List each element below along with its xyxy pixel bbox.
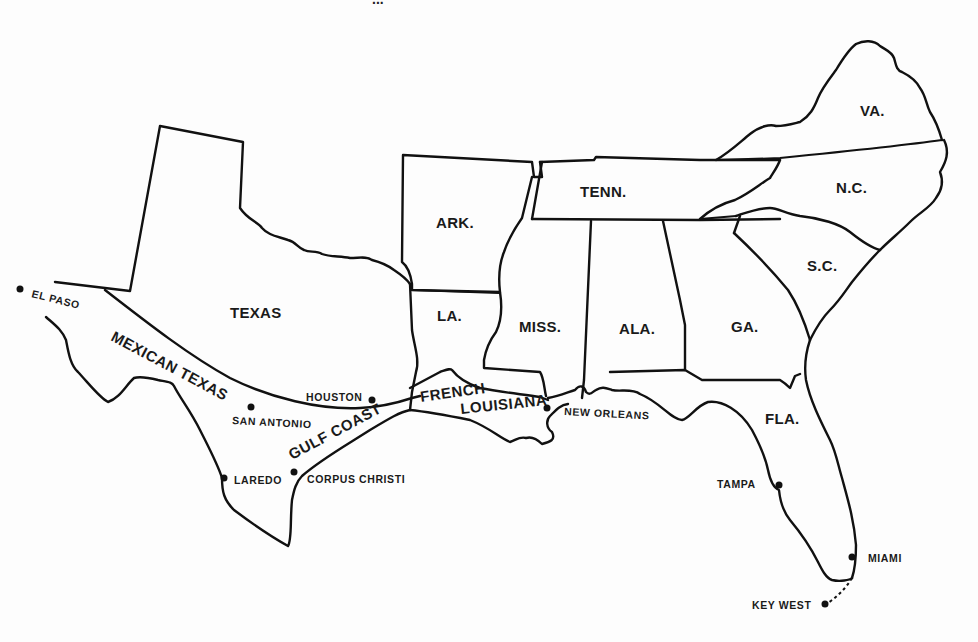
label-mississippi: MISS. [519, 318, 561, 335]
city-dot-key-west [822, 601, 829, 608]
city-label-houston: HOUSTON [306, 391, 363, 403]
city-label-miami: MIAMI [868, 552, 902, 564]
label-georgia: GA. [731, 318, 759, 335]
city-dot-el-paso [17, 286, 24, 293]
city-dot-laredo [221, 475, 228, 482]
city-label-key-west: KEY WEST [752, 599, 811, 611]
city-dot-san-antonio [248, 404, 255, 411]
city-dot-new-orleans [544, 405, 551, 412]
label-texas: TEXAS [230, 304, 282, 321]
city-dot-miami [849, 554, 856, 561]
city-label-laredo: LAREDO [234, 474, 282, 486]
city-dot-houston [369, 397, 376, 404]
label-virginia: VA. [860, 102, 885, 119]
label-north-carolina: N.C. [836, 179, 867, 196]
label-florida: FLA. [765, 410, 800, 427]
label-arkansas: ARK. [436, 214, 474, 231]
label-tennessee: TENN. [580, 183, 627, 200]
title-fragment: ... [372, 0, 384, 7]
city-dot-corpus-christi [291, 469, 298, 476]
label-alabama: ALA. [619, 320, 655, 337]
city-dot-tampa [776, 482, 783, 489]
city-label-tampa: TAMPA [717, 478, 756, 490]
city-label-corpus-christi: CORPUS CHRISTI [307, 473, 405, 485]
label-south-carolina: S.C. [807, 257, 837, 274]
southern-states-map: ... TEXAS ARK. LA. [0, 0, 978, 642]
label-louisiana: LA. [437, 307, 462, 324]
